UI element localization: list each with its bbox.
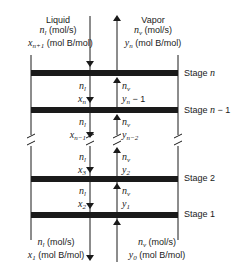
- stage-n-minus-1-label: Stage n − 1: [184, 104, 230, 115]
- stage-1-tray: [31, 212, 178, 218]
- bottom-liquid-label: nl (mol/s) x1 (mol B/mol): [22, 237, 90, 263]
- top-liquid-comp: xn+1 (mol B/mol): [28, 38, 88, 51]
- stage-1-label: Stage 1: [184, 209, 215, 219]
- stage-n-label: Stage n: [184, 67, 215, 78]
- top-vapor-flow: nv (mol/s): [122, 25, 184, 38]
- stage-2-label: Stage 2: [184, 173, 215, 183]
- stage-n-tray: [31, 70, 178, 76]
- vap-label-0: nv yn − 1: [122, 81, 145, 107]
- top-vapor-label: Vapor nv (mol/s) yn (mol B/mol): [122, 15, 184, 51]
- vap-label-1: nv yn−2: [122, 117, 138, 143]
- vap-label-2: nv y2: [122, 152, 130, 178]
- vapor-heading: Vapor: [122, 15, 184, 25]
- liquid-heading: Liquid: [28, 15, 88, 25]
- top-vapor-comp: yn (mol B/mol): [122, 38, 184, 51]
- liq-label-2: nl x3: [50, 152, 86, 178]
- top-liquid-flow: nl (mol/s): [28, 25, 88, 38]
- liq-label-0: nl xn: [50, 81, 86, 107]
- vap-label-3: nv y1: [122, 186, 130, 212]
- top-liquid-label: Liquid nl (mol/s) xn+1 (mol B/mol): [28, 15, 88, 51]
- liq-label-3: nl x2: [50, 186, 86, 212]
- bottom-vapor-label: nv (mol/s) y0 (mol B/mol): [124, 237, 190, 263]
- liq-label-1: nl xn−1: [50, 117, 86, 143]
- stage-n-minus-1-tray: [31, 107, 178, 113]
